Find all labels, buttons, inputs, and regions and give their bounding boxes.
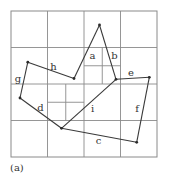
vertex-p4 [135,141,138,144]
quadtree-diagram: abefcidgh (a) [0,0,169,179]
figure-caption: (a) [10,162,24,173]
edge-label-e: e [128,67,134,78]
edge-i [62,79,117,128]
edge-label-d: d [37,102,44,113]
edge-a [74,25,100,79]
edge-label-b: b [111,50,117,61]
vertex-p8 [73,77,76,80]
edge-label-f: f [135,103,140,114]
vertex-p7 [26,61,29,64]
quadtree-grid [11,11,157,157]
edge-label-a: a [90,50,96,61]
vertex-p1 [98,24,101,27]
vertex-p6 [19,97,22,100]
edge-label-i: i [91,103,94,114]
vertex-p2 [115,78,118,81]
edge-label-g: g [15,73,22,84]
edge-label-c: c [96,135,102,146]
edge-label-h: h [50,61,57,72]
vertex-p5 [60,127,63,130]
vertex-p3 [148,76,151,79]
